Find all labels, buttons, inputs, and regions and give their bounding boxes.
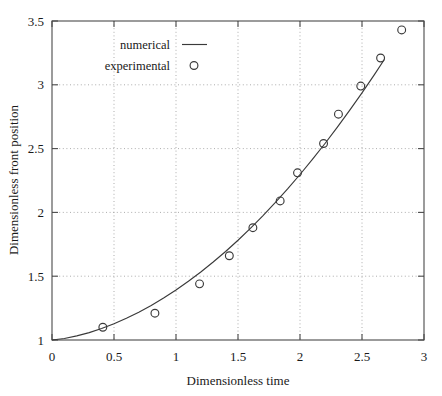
legend-label-numerical: numerical xyxy=(120,38,171,52)
experimental-data-point xyxy=(225,252,233,260)
y-axis-tick-labels: 11.522.533.5 xyxy=(28,14,44,348)
numerical-curve xyxy=(52,60,384,340)
chart-legend: numerical experimental xyxy=(105,38,207,73)
experimental-data-point xyxy=(249,224,257,232)
y-tick-label: 3 xyxy=(38,77,45,92)
y-tick-label: 2.5 xyxy=(28,141,44,156)
x-tick-label: 3 xyxy=(421,349,428,364)
scatter-plot-svg: 00.511.522.53 11.522.533.5 numerical exp… xyxy=(0,0,442,396)
legend-circle-icon xyxy=(190,62,198,70)
x-tick-label: 1.5 xyxy=(230,349,246,364)
experimental-data-point xyxy=(398,26,406,34)
x-tick-label: 0 xyxy=(49,349,56,364)
x-tick-label: 1 xyxy=(173,349,180,364)
x-axis-tick-labels: 00.511.522.53 xyxy=(49,349,428,364)
experimental-data-point xyxy=(377,54,385,62)
legend-label-experimental: experimental xyxy=(105,59,171,73)
x-tick-label: 0.5 xyxy=(106,349,122,364)
experimental-data-point xyxy=(357,82,365,90)
x-axis-title: Dimensionless time xyxy=(187,373,290,388)
experimental-data-point xyxy=(151,309,159,317)
y-tick-label: 1 xyxy=(38,333,45,348)
chart-figure: 00.511.522.53 11.522.533.5 numerical exp… xyxy=(0,0,442,396)
x-tick-label: 2 xyxy=(297,349,304,364)
y-tick-label: 2 xyxy=(38,205,45,220)
experimental-data-point xyxy=(196,280,204,288)
experimental-data-point xyxy=(335,110,343,118)
y-tick-label: 3.5 xyxy=(28,14,44,29)
x-tick-label: 2.5 xyxy=(354,349,370,364)
y-axis-title: Dimensionless front position xyxy=(6,104,21,255)
y-tick-label: 1.5 xyxy=(28,269,44,284)
